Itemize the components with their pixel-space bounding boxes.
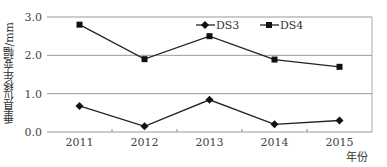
square-marker [142, 56, 148, 62]
legend-label: DS4 [280, 19, 303, 32]
diamond-marker [336, 117, 344, 125]
diamond-marker [76, 102, 84, 110]
y-tick-label: 2.0 [25, 49, 43, 62]
legend-item-ds3: DS3 [196, 19, 239, 32]
square-marker [77, 22, 83, 28]
square-marker [207, 33, 213, 39]
x-tick-label: 2014 [261, 136, 289, 149]
square-marker [272, 57, 278, 63]
line-chart: 0.01.02.03.0 20112012201320142015 DS3DS4 [0, 0, 387, 167]
diamond-marker [206, 96, 214, 104]
y-axis-ticks: 0.01.02.03.0 [25, 11, 43, 139]
x-tick-label: 2012 [131, 136, 159, 149]
square-marker [266, 22, 272, 28]
x-tick-label: 2013 [196, 136, 224, 149]
square-marker [337, 64, 343, 70]
y-tick-label: 0.0 [25, 126, 43, 139]
legend-item-ds4: DS4 [260, 19, 303, 32]
y-tick-label: 1.0 [25, 88, 43, 101]
legend: DS3DS4 [196, 19, 303, 32]
x-axis-label: 年份 [346, 148, 368, 164]
diamond-marker [141, 122, 149, 130]
y-tick-label: 3.0 [25, 11, 43, 24]
diamond-marker [201, 21, 209, 29]
legend-label: DS3 [216, 19, 239, 32]
diamond-marker [271, 120, 279, 128]
series-ds3 [76, 96, 344, 130]
x-tick-label: 2011 [66, 136, 94, 149]
series-layer [76, 22, 344, 131]
y-axis-label: 垂直位移年变幅/mm [4, 22, 18, 124]
